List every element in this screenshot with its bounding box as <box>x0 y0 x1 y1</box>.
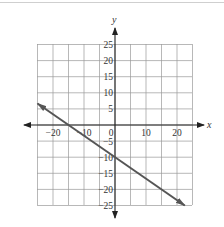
y-tick-label: −20 <box>98 185 113 195</box>
y-tick-label: 15 <box>104 72 114 82</box>
y-tick-label: 25 <box>104 40 114 50</box>
x-tick-label: 10 <box>141 128 151 138</box>
x-axis-label: x <box>206 119 212 130</box>
y-tick-label: 5 <box>108 104 113 114</box>
coordinate-plane: −20−1001020252015105−5−10−15−20−25 x y <box>0 0 224 227</box>
y-tick-label: 10 <box>104 88 114 98</box>
y-tick-label: −15 <box>98 169 113 179</box>
y-tick-label: −5 <box>103 137 113 147</box>
y-axis-label: y <box>111 14 117 25</box>
x-tick-label: −20 <box>46 128 61 138</box>
x-tick-label: 20 <box>172 128 182 138</box>
y-tick-label: −25 <box>98 201 113 211</box>
y-tick-label: 20 <box>104 56 114 66</box>
